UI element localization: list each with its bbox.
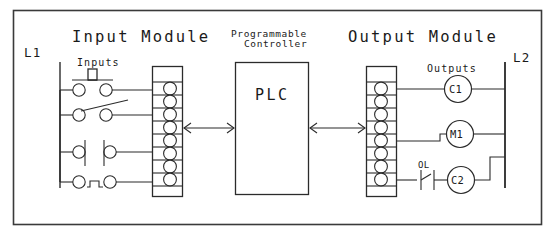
output-terminal-8 xyxy=(375,173,388,186)
input-device-limit-switch-no xyxy=(60,100,152,121)
pushbutton-plunger xyxy=(88,69,97,80)
label-inputs: Inputs xyxy=(77,57,120,68)
arrow-input-to-plc xyxy=(184,123,234,133)
plc-wiring-diagram: Input Module Programmable Controller Out… xyxy=(0,0,557,238)
input-terminal-8 xyxy=(164,173,177,186)
ol-link xyxy=(421,174,431,180)
output-terminal-7 xyxy=(375,160,388,173)
terminal-dot xyxy=(100,109,112,121)
title-controller-line2: Controller xyxy=(244,38,307,49)
output-terminal-4 xyxy=(375,121,388,134)
title-input-module: Input Module xyxy=(72,28,210,46)
output-terminal-5 xyxy=(375,134,388,147)
input-terminal-3 xyxy=(164,108,177,121)
coil-label-m1: M1 xyxy=(450,128,463,140)
output-device-coil-c1: C1 xyxy=(397,76,505,103)
input-terminal-5 xyxy=(164,134,177,147)
label-outputs: Outputs xyxy=(427,63,477,74)
input-device-contact-nc xyxy=(60,140,152,166)
label-l1: L1 xyxy=(24,45,41,60)
output-terminal-2 xyxy=(375,95,388,108)
title-output-module: Output Module xyxy=(348,28,498,46)
label-ol: OL xyxy=(418,160,429,170)
output-device-coil-m1: M1 xyxy=(397,121,505,148)
terminal-dot xyxy=(73,146,85,158)
input-device-pushbutton-no xyxy=(60,69,152,96)
diagram-canvas: Input Module Programmable Controller Out… xyxy=(0,0,557,238)
input-terminal-1 xyxy=(164,82,177,95)
input-terminal-6 xyxy=(164,147,177,160)
arrow-plc-to-output xyxy=(310,123,365,133)
input-module-terminal-strip xyxy=(153,67,183,197)
label-l2: L2 xyxy=(513,50,530,65)
output-module-terminal-strip xyxy=(367,67,397,197)
output-terminal-6 xyxy=(375,147,388,160)
coil-label-c1: C1 xyxy=(449,83,462,95)
plc-box xyxy=(236,63,309,195)
nc-pushbutton-bridge xyxy=(87,181,103,187)
terminal-dot xyxy=(104,146,116,158)
label-plc: PLC xyxy=(255,86,290,104)
input-terminal-4 xyxy=(164,121,177,134)
input-terminal-2 xyxy=(164,95,177,108)
terminal-dot xyxy=(100,84,112,96)
terminal-dot xyxy=(73,176,85,188)
terminal-dot xyxy=(104,176,116,188)
input-terminal-7 xyxy=(164,160,177,173)
coil-label-c2: C2 xyxy=(451,174,464,186)
terminal-dot xyxy=(73,84,85,96)
output-terminal-1 xyxy=(375,82,388,95)
output-terminal-3 xyxy=(375,108,388,121)
